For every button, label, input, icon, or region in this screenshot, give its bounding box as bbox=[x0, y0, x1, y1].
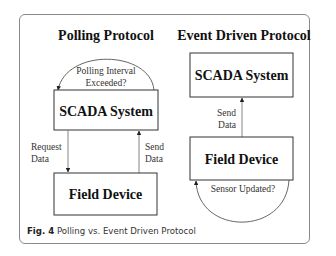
event-loop-label: Sensor Updated? bbox=[211, 184, 276, 194]
event-scada-label: SCADA System bbox=[195, 68, 289, 83]
polling-send-data-label-2: Data bbox=[145, 154, 164, 164]
protocol-diagram: Polling Protocol Polling Interval Exceed… bbox=[0, 0, 336, 256]
polling-scada-label: SCADA System bbox=[59, 104, 153, 119]
polling-loop-label-2: Exceeded? bbox=[85, 78, 126, 88]
event-title: Event Driven Protocol bbox=[177, 28, 311, 43]
caption-label: Fig. 4 bbox=[27, 226, 54, 236]
polling-send-data-label-1: Send bbox=[145, 142, 164, 152]
event-send-data-label-2: Data bbox=[218, 120, 237, 130]
polling-title: Polling Protocol bbox=[58, 28, 154, 43]
polling-loop-label-1: Polling Interval bbox=[76, 66, 136, 76]
request-data-label-2: Data bbox=[31, 154, 50, 164]
event-field-device-label: Field Device bbox=[205, 152, 278, 167]
figure-caption: Fig. 4 Polling vs. Event Driven Protocol bbox=[27, 226, 196, 236]
request-data-label-1: Request bbox=[31, 142, 62, 152]
event-send-data-label-1: Send bbox=[217, 108, 236, 118]
polling-field-device-label: Field Device bbox=[69, 187, 142, 202]
caption-text: Polling vs. Event Driven Protocol bbox=[54, 226, 196, 236]
